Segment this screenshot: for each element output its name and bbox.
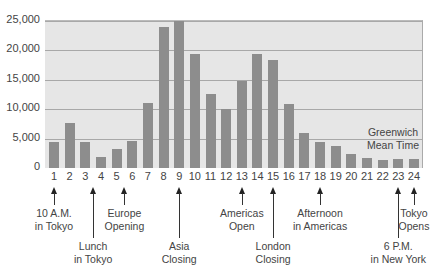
annotation-label: 6 P.M.in New York xyxy=(363,240,433,266)
bar-hour-17 xyxy=(299,133,309,168)
bar-hour-10 xyxy=(190,54,200,168)
bar-hour-19 xyxy=(331,146,341,168)
bar-hour-21 xyxy=(362,158,372,168)
bar-chart: 05,00010,00015,00020,00025,000 Greenwich… xyxy=(0,0,444,273)
bar-hour-4 xyxy=(96,157,106,168)
bar-hour-20 xyxy=(346,154,356,168)
bar-hour-11 xyxy=(206,94,216,168)
annotation-label: TokyoOpens xyxy=(379,207,444,233)
x-tick-label: 23 xyxy=(390,170,406,182)
x-tick-label: 13 xyxy=(234,170,250,182)
y-tick-label: 25,000 xyxy=(0,13,40,25)
annotation-arrow xyxy=(179,193,180,238)
y-tick-label: 15,000 xyxy=(0,72,40,84)
annotation-arrow xyxy=(320,193,321,205)
annotation-arrow xyxy=(54,193,55,205)
x-tick-label: 4 xyxy=(93,170,109,182)
bar-hour-15 xyxy=(268,60,278,168)
annotation-label: AmericasOpen xyxy=(207,207,277,233)
x-tick-label: 22 xyxy=(375,170,391,182)
annotation-label: 10 A.M.in Tokyo xyxy=(19,207,89,233)
gridline xyxy=(45,109,422,110)
bar-hour-8 xyxy=(159,27,169,168)
gridline xyxy=(45,139,422,140)
x-tick-label: 18 xyxy=(312,170,328,182)
x-tick-label: 19 xyxy=(328,170,344,182)
y-tick-label: 20,000 xyxy=(0,42,40,54)
x-tick-label: 12 xyxy=(218,170,234,182)
bar-hour-3 xyxy=(80,142,90,168)
bar-hour-18 xyxy=(315,142,325,168)
x-tick-label: 17 xyxy=(296,170,312,182)
bar-hour-5 xyxy=(112,149,122,168)
annotation-label: EuropeOpening xyxy=(89,207,159,233)
gmt-label-line1: Greenwich xyxy=(363,126,423,139)
bar-hour-22 xyxy=(378,160,388,168)
y-tick-label: 5,000 xyxy=(0,131,40,143)
annotation-label: Lunchin Tokyo xyxy=(58,240,128,266)
x-tick-label: 7 xyxy=(140,170,156,182)
bar-hour-2 xyxy=(65,123,75,168)
x-tick-label: 14 xyxy=(249,170,265,182)
x-tick-label: 10 xyxy=(187,170,203,182)
bar-hour-7 xyxy=(143,103,153,168)
gridline xyxy=(45,21,422,22)
bar-hour-9 xyxy=(174,21,184,168)
bar-hour-23 xyxy=(393,159,403,168)
gridline xyxy=(45,50,422,51)
gridline xyxy=(45,80,422,81)
plot-area: Greenwich Mean Time xyxy=(45,20,423,168)
x-tick-label: 2 xyxy=(62,170,78,182)
bar-hour-14 xyxy=(252,54,262,168)
bar-hour-13 xyxy=(237,81,247,168)
x-tick-label: 9 xyxy=(171,170,187,182)
x-tick-label: 20 xyxy=(343,170,359,182)
x-tick-label: 11 xyxy=(203,170,219,182)
x-tick-label: 8 xyxy=(156,170,172,182)
annotation-arrow xyxy=(124,193,125,205)
annotation-label: LondonClosing xyxy=(238,240,308,266)
x-tick-label: 16 xyxy=(281,170,297,182)
y-tick-label: 10,000 xyxy=(0,101,40,113)
x-tick-label: 3 xyxy=(77,170,93,182)
annotation-label: AsiaClosing xyxy=(144,240,214,266)
x-tick-label: 1 xyxy=(46,170,62,182)
annotation-label: Afternoonin Americas xyxy=(285,207,355,233)
x-tick-label: 21 xyxy=(359,170,375,182)
annotation-arrow xyxy=(273,193,274,238)
gmt-label-line2: Mean Time xyxy=(363,139,423,152)
x-tick-label: 24 xyxy=(406,170,422,182)
bar-hour-6 xyxy=(127,141,137,168)
bar-hour-16 xyxy=(284,104,294,168)
annotation-arrow xyxy=(414,193,415,205)
bar-hour-12 xyxy=(221,109,231,168)
y-tick-label: 0 xyxy=(0,160,40,172)
annotation-arrow xyxy=(242,193,243,205)
bar-hour-24 xyxy=(409,159,419,168)
x-tick-label: 6 xyxy=(124,170,140,182)
x-tick-label: 15 xyxy=(265,170,281,182)
x-tick-label: 5 xyxy=(109,170,125,182)
bar-hour-1 xyxy=(49,142,59,168)
